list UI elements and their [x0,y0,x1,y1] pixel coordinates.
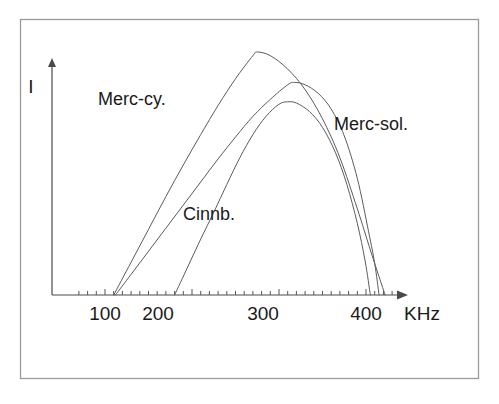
x-tick-label-100: 100 [89,303,121,324]
x-tick-label-200: 200 [142,303,174,324]
series-label-merc-cy: Merc-cy. [98,89,166,109]
series-label-cinnb: Cinnb. [183,204,235,224]
x-tick-label-300: 300 [247,303,279,324]
series-annotations: Merc-cy. Merc-sol. Cinnb. [98,89,408,224]
x-axis-title: KHz [404,303,440,324]
y-axis-title: I [28,76,33,97]
spectrum-chart: 100 200 300 400 KHz I Merc-cy. Merc-sol.… [0,0,499,404]
figure-root: 100 200 300 400 KHz I Merc-cy. Merc-sol.… [0,0,499,404]
series-label-merc-sol: Merc-sol. [334,114,408,134]
x-axis-tick-labels: 100 200 300 400 [89,303,382,324]
x-axis-ticks [79,289,392,295]
x-axis-arrowhead [397,291,408,300]
y-axis-arrowhead [48,58,56,67]
figure-border [21,20,479,379]
x-tick-label-400: 400 [350,303,382,324]
